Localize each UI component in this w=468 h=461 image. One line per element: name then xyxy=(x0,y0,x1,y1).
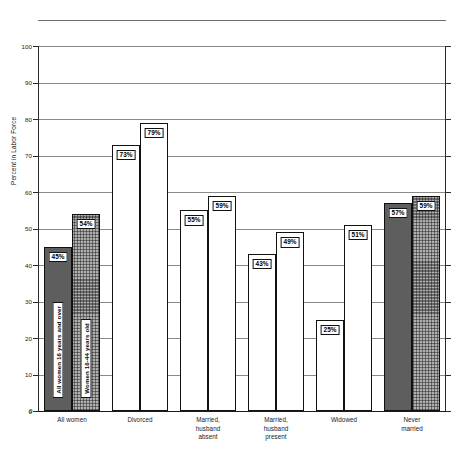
bar: 57% xyxy=(384,203,412,411)
bar: 43% xyxy=(248,254,276,411)
y-tick-label-70: 70 xyxy=(6,152,32,159)
bar-value-label: 59% xyxy=(417,201,436,211)
y-tick-label-20: 20 xyxy=(6,335,32,342)
y-tick-label-100: 100 xyxy=(6,43,32,50)
y-axis-title: Percent in Labor Force xyxy=(10,117,17,185)
bar-value-label: 57% xyxy=(389,208,408,218)
bar: 59% xyxy=(208,196,236,411)
y-tick-label-30: 30 xyxy=(6,298,32,305)
x-axis-label: Nevermarried xyxy=(378,416,446,433)
x-axis-label: Widowed xyxy=(310,416,378,425)
bar-value-label: 25% xyxy=(321,325,340,335)
bar-value-label: 49% xyxy=(281,237,300,247)
bar: 45%All women 16 years and over xyxy=(44,247,72,411)
bar-value-label: 43% xyxy=(253,259,272,269)
bar-value-label: 79% xyxy=(145,128,164,138)
bar-value-label: 55% xyxy=(185,215,204,225)
bar: 51% xyxy=(344,225,372,411)
bar-value-label: 59% xyxy=(213,201,232,211)
gridline-90 xyxy=(38,83,446,84)
bar: 25% xyxy=(316,320,344,411)
legend-label-women-16-44: Women 16-44 years old xyxy=(81,319,92,398)
legend-label-text: All women 16 years and over xyxy=(55,306,62,394)
y-tick-label-40: 40 xyxy=(6,262,32,269)
x-axis-label: Divorced xyxy=(106,416,174,425)
left-axis-line xyxy=(38,46,39,411)
gridline-60 xyxy=(38,192,446,193)
y-tick-label-90: 90 xyxy=(6,79,32,86)
gridline-70 xyxy=(38,156,446,157)
y-tick-label-80: 80 xyxy=(6,116,32,123)
gridline-80 xyxy=(38,119,446,120)
baseline-axis xyxy=(38,411,446,412)
x-axis-label: All women xyxy=(38,416,106,425)
plot-area: 0102030405060708090100 45%All women 16 y… xyxy=(38,20,446,411)
right-axis-line xyxy=(445,46,446,411)
bar: 54%Women 16-44 years old xyxy=(72,214,100,411)
gridline-100 xyxy=(38,46,446,47)
legend-label-text: Women 16-44 years old xyxy=(83,323,90,394)
bar-value-label: 54% xyxy=(77,219,96,229)
bar: 73% xyxy=(112,145,140,411)
bar-value-label: 51% xyxy=(349,230,368,240)
bar: 79% xyxy=(140,123,168,411)
x-axis-label: Married,husbandpresent xyxy=(242,416,310,442)
x-axis-label: Married,husbandabsent xyxy=(174,416,242,442)
y-tick-label-60: 60 xyxy=(6,189,32,196)
bar-value-label: 45% xyxy=(49,252,68,262)
bar-value-label: 73% xyxy=(117,150,136,160)
top-border-line xyxy=(38,20,446,21)
chart-page: Percent in Labor Force 01020304050607080… xyxy=(0,0,468,461)
bar: 59% xyxy=(412,196,440,411)
y-tick-label-50: 50 xyxy=(6,225,32,232)
bar: 49% xyxy=(276,232,304,411)
y-tick-label-10: 10 xyxy=(6,371,32,378)
legend-label-all-women: All women 16 years and over xyxy=(53,302,64,398)
bar: 55% xyxy=(180,210,208,411)
origin-zero-label: 0 xyxy=(29,407,32,414)
